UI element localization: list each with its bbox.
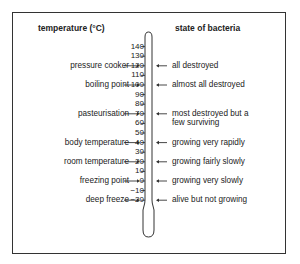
arrow-left-icon xyxy=(156,160,167,164)
bacteria-state-text: most destroyed but a xyxy=(172,109,248,118)
arrow-left-icon xyxy=(156,64,167,68)
right-label: almost all destroyed xyxy=(172,80,245,89)
bacteria-state-text: growing very slowly xyxy=(172,176,243,185)
bacteria-state-text: growing very rapidly xyxy=(172,138,245,147)
tick-label: 20 xyxy=(135,158,144,166)
left-label: body temperature xyxy=(65,138,129,147)
right-label: all destroyed xyxy=(172,61,218,70)
bacteria-state-text: all destroyed xyxy=(172,61,218,70)
arrow-left-icon xyxy=(156,141,167,145)
right-label: alive but not growing xyxy=(172,195,247,204)
tick-label: 90 xyxy=(135,91,144,99)
arrow-left-icon xyxy=(156,112,167,116)
arrow-left-icon xyxy=(156,179,167,183)
tick-label: 80 xyxy=(135,100,144,108)
left-label: room temperature xyxy=(64,157,129,166)
thermometer-outline xyxy=(143,32,154,237)
tick-label: 70 xyxy=(135,110,144,118)
left-label: pressure cooker xyxy=(70,61,129,70)
tick-label: 40 xyxy=(135,139,144,147)
arrow-left-icon xyxy=(156,198,167,202)
right-label: growing very slowly xyxy=(172,176,243,185)
left-label: boiling point xyxy=(85,80,129,89)
right-label: most destroyed but afew surviving xyxy=(172,109,248,127)
bacteria-state-text: growing fairly slowly xyxy=(172,157,245,166)
tick-label: −10 xyxy=(130,187,144,195)
left-label: pasteurisation xyxy=(78,109,129,118)
left-label: freezing point xyxy=(80,176,129,185)
bacteria-state-text: almost all destroyed xyxy=(172,80,245,89)
right-label: growing very rapidly xyxy=(172,138,245,147)
right-label: growing fairly slowly xyxy=(172,157,245,166)
tick-label: 140 xyxy=(131,43,144,51)
tick-label: −20 xyxy=(130,196,144,204)
tick-label: 0 xyxy=(140,177,144,185)
tick-label: 60 xyxy=(135,119,144,127)
tick-label: 120 xyxy=(131,62,144,70)
tick-label: 130 xyxy=(131,52,144,60)
tick-label: 30 xyxy=(135,148,144,156)
tick-label: 10 xyxy=(135,167,144,175)
tick-label: 110 xyxy=(131,71,144,79)
bacteria-state-text: alive but not growing xyxy=(172,195,247,204)
tick-label: 50 xyxy=(135,129,144,137)
left-label: deep freeze xyxy=(86,195,129,204)
bacteria-state-text-line2: few surviving xyxy=(172,118,219,127)
arrow-left-icon xyxy=(156,83,167,87)
thermometer xyxy=(0,0,300,264)
tick-label: 100 xyxy=(131,81,144,89)
